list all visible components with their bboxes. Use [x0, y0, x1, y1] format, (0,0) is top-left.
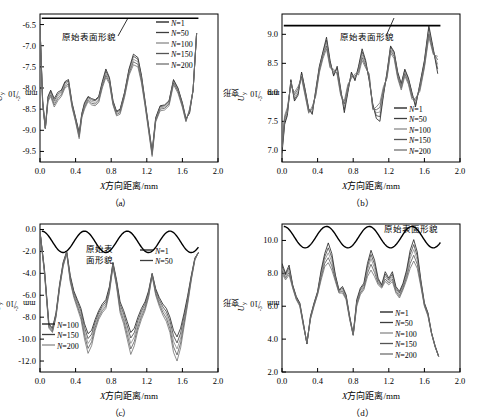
legend-label: N=50: [408, 115, 427, 124]
panel-b: 变形Uy/10-3mm 0.00.40.81.21.62.09.08.58.07…: [242, 0, 483, 210]
panel-d-caption: （d）: [242, 406, 483, 419]
panel-a-plot: 0.00.40.81.21.62.0-6.5-7.0-7.5-8.0-8.5-9…: [0, 0, 241, 210]
x-tick-label: 2.0: [213, 376, 224, 386]
y-tick-label: 8.5: [267, 58, 278, 68]
y-tick-label: -12.0: [18, 356, 36, 366]
y-tick-label: 7.0: [267, 145, 278, 155]
x-tick-label: 1.2: [383, 376, 394, 386]
original-surface-annotation: 面形貌: [86, 255, 113, 265]
x-tick-label: 2.0: [455, 166, 466, 176]
y-tick-label: 10.0: [263, 235, 278, 245]
panel-b-caption: （b）: [242, 196, 483, 209]
legend-label: N=200: [394, 351, 417, 360]
y-tick-label: 6.0: [267, 301, 278, 311]
original-surface-annotation: 原始表面形貌: [384, 224, 438, 234]
legend-label: N=50: [170, 29, 189, 38]
legend-label: N=100: [56, 321, 79, 330]
x-tick-label: 1.2: [383, 166, 394, 176]
y-tick-label: 0.0: [25, 224, 36, 234]
y-tick-label: -6.0: [23, 290, 36, 300]
original-surface-annotation: 原始表面形貌: [340, 32, 394, 42]
x-tick-label: 1.6: [177, 166, 188, 176]
y-tick-label: 8.0: [267, 268, 278, 278]
x-tick-label: 0.8: [348, 166, 359, 176]
legend-label: N=50: [394, 319, 413, 328]
y-tick-label: 4.0: [267, 334, 278, 344]
y-tick-label: -2.0: [23, 246, 36, 256]
panel-a: 变形Uy/10-3mm 0.00.40.81.21.62.0-6.5-7.0-7…: [0, 0, 241, 210]
x-tick-label: 0.8: [106, 166, 117, 176]
legend-label: N=200: [170, 61, 193, 70]
x-tick-label: 0.8: [106, 376, 117, 386]
y-tick-label: -9.0: [23, 125, 36, 135]
panel-d-plot: 0.00.40.81.21.62.010.08.06.04.02.0X方向距离/…: [242, 210, 483, 420]
legend-label: N=50: [154, 257, 173, 266]
x-tick-label: 0.0: [277, 376, 288, 386]
x-tick-label: 1.2: [141, 376, 152, 386]
legend-label: N=1: [408, 105, 423, 114]
x-axis-title: X方向距离/mm: [341, 390, 400, 401]
y-tick-label: 8.0: [267, 87, 278, 97]
y-tick-label: 7.5: [267, 116, 278, 126]
y-tick-label: -7.5: [23, 62, 36, 72]
y-tick-label: -8.0: [23, 312, 36, 322]
legend-label: N=150: [56, 331, 79, 340]
y-tick-label: -6.5: [23, 20, 36, 30]
legend-label: N=100: [394, 330, 417, 339]
panel-c-caption: （c）: [0, 406, 241, 419]
y-tick-label: -4.0: [23, 268, 36, 278]
x-tick-label: 0.0: [277, 166, 288, 176]
figure-container: 变形Uy/10-3mm 0.00.40.81.21.62.0-6.5-7.0-7…: [0, 0, 483, 420]
x-tick-label: 0.4: [312, 376, 323, 386]
x-tick-label: 2.0: [213, 166, 224, 176]
legend-label: N=1: [154, 247, 169, 256]
x-tick-label: 0.4: [70, 166, 81, 176]
y-tick-label: 9.0: [267, 29, 278, 39]
x-axis-title: X方向距离/mm: [99, 390, 158, 401]
x-tick-label: 1.6: [419, 166, 430, 176]
x-tick-label: 0.4: [70, 376, 81, 386]
x-tick-label: 1.6: [419, 376, 430, 386]
legend-label: N=200: [56, 342, 79, 351]
legend-label: N=1: [170, 19, 185, 28]
panel-b-plot: 0.00.40.81.21.62.09.08.58.07.57.0X方向距离/m…: [242, 0, 483, 210]
x-axis-title: X方向距离/mm: [341, 180, 400, 191]
x-tick-label: 1.6: [177, 376, 188, 386]
panel-d: 变形Uy/10-3mm 0.00.40.81.21.62.010.08.06.0…: [242, 210, 483, 420]
legend-label: N=1: [394, 309, 409, 318]
y-tick-label: -10.0: [18, 334, 36, 344]
legend-label: N=150: [170, 50, 193, 59]
x-tick-label: 0.4: [312, 166, 323, 176]
panel-a-caption: （a）: [0, 196, 241, 209]
x-tick-label: 0.0: [35, 376, 46, 386]
original-surface-annotation: 原始表面形貌: [62, 32, 116, 42]
y-tick-label: -7.0: [23, 41, 36, 51]
panel-c: 变形Uy/10-3mm 0.00.40.81.21.62.00.0-2.0-4.…: [0, 210, 241, 420]
legend-label: N=100: [170, 40, 193, 49]
y-tick-label: 2.0: [267, 367, 278, 377]
original-surface-annotation: 原始表: [86, 244, 113, 254]
y-tick-label: -9.5: [23, 146, 36, 156]
x-tick-label: 0.8: [348, 376, 359, 386]
legend-label: N=150: [394, 340, 417, 349]
x-tick-label: 2.0: [455, 376, 466, 386]
x-axis-title: X方向距离/mm: [99, 180, 158, 191]
x-tick-label: 1.2: [141, 166, 152, 176]
legend-label: N=150: [408, 136, 431, 145]
panel-c-plot: 0.00.40.81.21.62.00.0-2.0-4.0-6.0-8.0-10…: [0, 210, 241, 420]
legend-label: N=100: [408, 126, 431, 135]
x-tick-label: 0.0: [35, 166, 46, 176]
legend-label: N=200: [408, 147, 431, 156]
y-tick-label: -8.0: [23, 83, 36, 93]
y-tick-label: -8.5: [23, 104, 36, 114]
